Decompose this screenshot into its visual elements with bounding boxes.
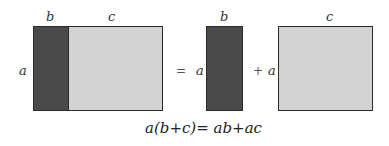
middle-rect-ab [206,26,243,111]
label-mid-b: b [220,10,228,23]
equals-sign: = [176,65,186,77]
left-rect-ab [33,26,69,111]
plus-sign: + [253,65,263,77]
label-left-b: b [46,10,54,23]
label-left-a: a [19,64,27,77]
label-mid-a: a [196,64,204,77]
label-right-a: a [268,64,276,77]
distributive-equation: a(b+c)= ab+ac [145,121,262,136]
left-rect-ac [68,26,163,111]
label-left-c: c [108,10,115,23]
label-right-c: c [326,10,333,23]
right-rect-ac [278,26,373,111]
